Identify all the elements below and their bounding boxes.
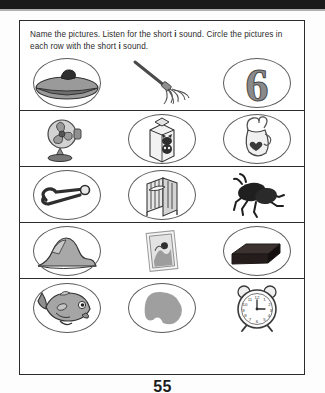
pitcher-icon [220,114,294,164]
picture-row-5: 12 1 2 3 4 5 6 7 8 9 10 [20,279,304,336]
svg-text:11: 11 [247,296,252,301]
six-icon: 6 [220,58,294,108]
picture-cell-six[interactable]: 6 [209,55,304,110]
alarm-clock-icon: 12 1 2 3 4 5 6 7 8 9 10 [220,283,294,333]
instructions-segment-3: sound. [121,42,148,51]
crib-icon [125,170,199,220]
worksheet-border-box: Name the pictures. Listen for the short … [19,20,305,375]
picture-cell-crib[interactable] [115,167,210,222]
worksheet-page: Name the pictures. Listen for the short … [0,11,325,393]
picture-cell-lid[interactable] [20,55,115,110]
picture-cell-bug[interactable] [209,167,304,222]
svg-text:12: 12 [254,294,259,299]
blob-icon [125,283,199,333]
fish-icon [30,283,104,333]
picture-grid: 6 [20,55,304,336]
picture-row-2 [20,111,304,167]
picture-cell-fish[interactable] [20,279,115,336]
instructions-segment-1: Name the pictures. Listen for the short [30,30,174,39]
picture-cell-blob[interactable] [115,279,210,336]
six-glyph: 6 [245,60,268,111]
picture-row-1: 6 [20,55,304,111]
safety-pin-icon [30,170,104,220]
lid-icon [30,58,104,108]
bug-icon [220,170,294,220]
svg-text:10: 10 [242,302,247,307]
picture-cell-clock[interactable]: 12 1 2 3 4 5 6 7 8 9 10 [209,279,304,336]
hill-icon [30,226,104,276]
picture-row-4 [20,223,304,279]
fan-icon [30,114,104,164]
picture-cell-hill[interactable] [20,223,115,278]
mop-icon [125,58,199,108]
stamp-icon [125,226,199,276]
brick-icon [220,226,294,276]
page-number: 55 [0,378,325,393]
picture-cell-stamp[interactable] [115,223,210,278]
picture-row-3 [20,167,304,223]
scan-artifact-bar [0,0,325,9]
milk-carton-icon [125,114,199,164]
picture-cell-pitcher[interactable] [209,111,304,166]
picture-cell-pin[interactable] [20,167,115,222]
picture-cell-mop[interactable] [115,55,210,110]
picture-cell-milk[interactable] [115,111,210,166]
picture-cell-fan[interactable] [20,111,115,166]
instructions-text: Name the pictures. Listen for the short … [30,29,296,52]
picture-cell-brick[interactable] [209,223,304,278]
